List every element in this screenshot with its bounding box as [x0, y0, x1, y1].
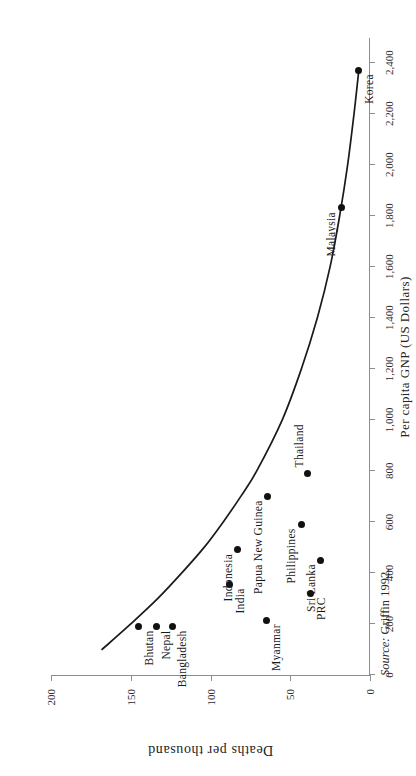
y-tick	[290, 675, 291, 681]
y-tick	[370, 675, 371, 681]
data-point-label: Nepal	[160, 631, 172, 660]
data-point-label: Philippines	[285, 528, 297, 583]
data-point	[355, 67, 362, 74]
source-prefix: Source:	[378, 638, 392, 676]
data-point-label: Myanmar	[270, 624, 282, 671]
data-point-label: PRC	[315, 597, 327, 620]
x-tick-label: 1,200	[383, 356, 395, 381]
x-tick	[369, 470, 375, 471]
data-point-label: Bhutan	[143, 631, 155, 666]
data-point	[263, 617, 270, 624]
y-tick-label: 200	[45, 689, 57, 706]
data-point-label: India	[234, 588, 246, 613]
y-axis-title: Deaths per thousand	[51, 742, 370, 758]
x-tick	[369, 266, 375, 267]
x-tick	[369, 317, 375, 318]
source-reference: Griffin 1992.	[378, 569, 392, 635]
x-tick	[369, 521, 375, 522]
fitted-curve	[51, 37, 370, 675]
data-point	[153, 623, 160, 630]
data-point	[317, 557, 324, 564]
figure: Deaths per thousand Per capita GNP (US D…	[0, 0, 416, 776]
x-tick	[369, 368, 375, 369]
x-tick	[369, 113, 375, 114]
x-tick	[369, 572, 375, 573]
x-tick-label: 2,000	[383, 152, 395, 177]
data-point	[298, 521, 305, 528]
x-tick-label: 600	[383, 514, 395, 531]
x-tick-label: 1,400	[383, 305, 395, 330]
x-tick-label: 2,400	[383, 50, 395, 75]
x-tick-label: 1,800	[383, 203, 395, 228]
y-tick-label: 0	[364, 689, 376, 695]
x-tick	[369, 419, 375, 420]
data-point-label: Bangladesh	[176, 631, 188, 688]
data-point-label: Korea	[363, 74, 375, 104]
x-tick	[369, 623, 375, 624]
x-axis-title: Per capita GNP (US Dollars)	[397, 38, 413, 676]
y-tick-label: 150	[125, 689, 137, 706]
y-tick	[211, 675, 212, 681]
data-point-label: Indonesia	[222, 554, 234, 601]
rotated-figure-wrapper: Deaths per thousand Per capita GNP (US D…	[0, 0, 416, 776]
plot-area: 02004006008001,0001,2001,4001,6001,8002,…	[51, 38, 370, 676]
y-tick	[51, 675, 52, 681]
x-tick	[369, 164, 375, 165]
x-tick	[369, 215, 375, 216]
x-tick-label: 800	[383, 463, 395, 480]
y-tick-label: 50	[284, 689, 296, 700]
data-point-label: Papua New Guinea	[252, 500, 264, 594]
y-tick-label: 100	[205, 689, 217, 706]
data-point-label: Malaysia	[325, 212, 337, 257]
x-tick	[369, 62, 375, 63]
data-point	[169, 623, 176, 630]
x-tick-label: 1,600	[383, 254, 395, 279]
x-tick-label: 1,000	[383, 407, 395, 432]
data-point-label: Sri Lanka	[305, 564, 317, 612]
data-point-label: Thailand	[293, 424, 305, 467]
y-tick	[131, 675, 132, 681]
x-tick-label: 2,200	[383, 101, 395, 126]
source-note: Source: Griffin 1992.	[378, 569, 393, 676]
